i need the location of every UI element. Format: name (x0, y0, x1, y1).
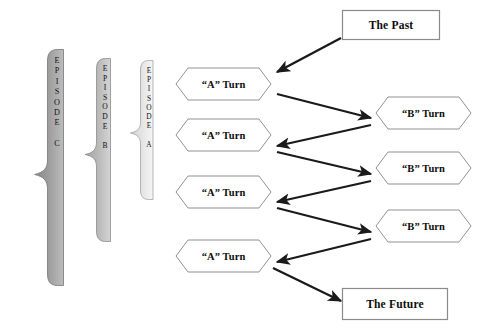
a-turn-2-shape (176, 119, 271, 151)
arrow-a3-to-b3 (277, 208, 371, 232)
b-turn-2-shape (376, 152, 471, 184)
the-past-box-shape (343, 11, 440, 40)
arrow-past-to-a1 (277, 38, 341, 72)
arrow-a1-to-b1 (277, 94, 371, 118)
arrow-b1-to-a2 (277, 125, 371, 146)
a-turn-1-shape (176, 68, 271, 100)
diagram-canvas: E P I S O D E C E P I S O D E B E P I S … (0, 0, 481, 333)
arrow-layer (273, 38, 371, 301)
b-turn-1-shape (376, 97, 471, 129)
a-turn-3-shape (176, 176, 271, 208)
arrow-b3-to-a4 (277, 239, 371, 262)
brace-episode-a (131, 61, 154, 200)
arrow-a2-to-b2 (277, 152, 371, 174)
arrow-a4-to-future (273, 268, 341, 301)
diagram-vector-layer (0, 0, 481, 333)
a-turn-hexagons (176, 68, 271, 272)
brace-episode-b (85, 59, 111, 242)
brace-episode-c (35, 50, 64, 286)
b-turn-hexagons (376, 97, 471, 242)
a-turn-4-shape (176, 240, 271, 272)
b-turn-3-shape (376, 210, 471, 242)
arrow-b2-to-a3 (277, 181, 371, 202)
the-future-box-shape (343, 289, 448, 320)
